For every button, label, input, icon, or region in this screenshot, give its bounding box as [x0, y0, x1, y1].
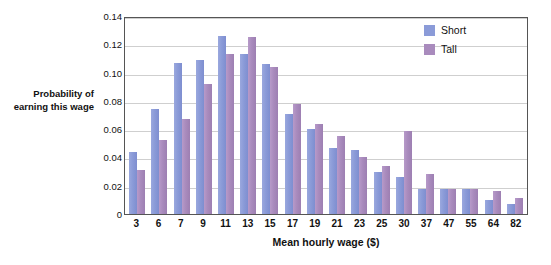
bar-short	[129, 152, 137, 214]
x-axis-tick-label: 30	[393, 218, 415, 229]
bar-short	[351, 150, 359, 214]
bar-short	[196, 60, 204, 214]
bar-tall	[337, 136, 345, 214]
y-axis-tick-label: 0.10	[104, 69, 123, 79]
y-axis-tick-label: 0	[117, 210, 122, 220]
x-axis-tick-label: 55	[460, 218, 482, 229]
x-axis-tick-label: 23	[348, 218, 370, 229]
x-axis-title: Mean hourly wage ($)	[124, 236, 528, 248]
bar-groups	[125, 18, 527, 214]
bar-short	[485, 200, 493, 214]
bar-group	[148, 18, 170, 214]
bar-tall	[248, 37, 256, 214]
x-axis-tick-label: 19	[304, 218, 326, 229]
bar-tall	[159, 140, 167, 214]
bar-short	[440, 189, 448, 214]
y-axis-tick-label: 0.14	[104, 12, 123, 22]
bar-short	[307, 129, 315, 214]
bar-tall	[426, 174, 434, 214]
bar-tall	[515, 198, 523, 214]
plot-area	[124, 17, 528, 215]
legend-swatch-icon	[424, 44, 435, 55]
bar-short	[218, 36, 226, 214]
bar-tall	[382, 166, 390, 214]
bar-short	[329, 148, 337, 214]
legend-item-short: Short	[424, 24, 466, 36]
legend-label: Short	[441, 24, 466, 36]
bar-short	[507, 204, 515, 214]
x-axis-tick-label: 3	[125, 218, 147, 229]
x-axis-tick-label: 11	[214, 218, 236, 229]
legend: ShortTall	[424, 24, 466, 55]
bar-tall	[204, 84, 212, 214]
bar-short	[174, 63, 182, 214]
bar-tall	[293, 104, 301, 214]
y-axis-tick-label: 0.06	[104, 125, 123, 135]
bar-group	[237, 18, 259, 214]
bar-tall	[448, 189, 456, 214]
bar-tall	[182, 119, 190, 214]
bar-group	[504, 18, 526, 214]
bar-short	[418, 189, 426, 214]
x-axis-tick-label: 17	[281, 218, 303, 229]
bar-short	[240, 54, 248, 214]
x-axis-tick-label: 21	[326, 218, 348, 229]
x-axis-tick-label: 37	[415, 218, 437, 229]
bar-short	[151, 109, 159, 214]
legend-item-tall: Tall	[424, 43, 466, 55]
y-axis-title: Probability of earning this wage	[2, 88, 94, 113]
bar-tall	[493, 191, 501, 214]
bar-group	[393, 18, 415, 214]
bar-short	[285, 114, 293, 214]
x-axis-tick-label: 82	[505, 218, 527, 229]
bar-short	[374, 172, 382, 214]
y-axis-tick-labels: 00.020.040.060.080.100.120.14	[94, 0, 124, 265]
x-axis-tick-label: 15	[259, 218, 281, 229]
x-axis-tick-label: 47	[438, 218, 460, 229]
bar-group	[259, 18, 281, 214]
bar-group	[282, 18, 304, 214]
chart-page: Probability of earning this wage 00.020.…	[0, 0, 551, 265]
y-axis-tick-label: 0.08	[104, 97, 123, 107]
x-axis-tick-label: 9	[192, 218, 214, 229]
bar-group	[193, 18, 215, 214]
bar-group	[170, 18, 192, 214]
bar-tall	[359, 157, 367, 214]
bar-group	[482, 18, 504, 214]
x-axis-tick-label: 25	[371, 218, 393, 229]
bar-tall	[226, 54, 234, 214]
legend-swatch-icon	[424, 25, 435, 36]
legend-label: Tall	[441, 43, 457, 55]
bar-group	[348, 18, 370, 214]
x-axis-tick-label: 64	[482, 218, 504, 229]
bar-tall	[470, 189, 478, 214]
bar-group	[370, 18, 392, 214]
bar-tall	[137, 170, 145, 214]
x-axis-tick-label: 7	[170, 218, 192, 229]
bar-tall	[404, 131, 412, 214]
bar-group	[304, 18, 326, 214]
bar-group	[215, 18, 237, 214]
bar-tall	[315, 124, 323, 215]
x-axis-tick-label: 13	[237, 218, 259, 229]
y-axis-tick-label: 0.04	[104, 153, 123, 163]
x-axis-tick-label: 6	[147, 218, 169, 229]
y-axis-tick-label: 0.12	[104, 40, 123, 50]
bar-group	[326, 18, 348, 214]
bar-short	[262, 64, 270, 214]
bar-short	[396, 177, 404, 214]
x-axis-tick-labels: 36791113151719212325303747556482	[124, 218, 528, 229]
bar-tall	[270, 67, 278, 214]
y-axis-tick-label: 0.02	[104, 182, 123, 192]
bar-group	[126, 18, 148, 214]
bar-short	[462, 189, 470, 214]
